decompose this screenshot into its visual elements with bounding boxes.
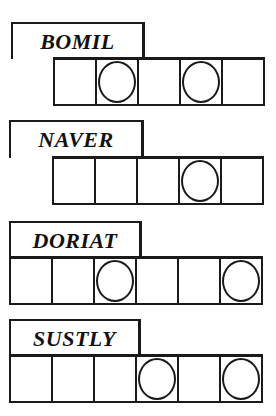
scrambled-word-box: BOMIL: [11, 22, 145, 59]
scrambled-word: SUSTLY: [33, 326, 116, 352]
answer-cells: [9, 354, 263, 403]
letter-cell-5[interactable]: [179, 357, 221, 401]
letter-cell-3[interactable]: [95, 357, 137, 401]
letter-cell-5[interactable]: [223, 60, 265, 104]
scrambled-word: DORIAT: [33, 228, 118, 254]
letter-cell-1[interactable]: [11, 357, 53, 401]
circled-letter-cell-4[interactable]: [137, 357, 179, 401]
letter-cell-2[interactable]: [53, 259, 95, 303]
answer-cells: [53, 57, 265, 106]
circled-letter-cell-4[interactable]: [180, 159, 222, 203]
scrambled-word-box: SUSTLY: [9, 319, 141, 356]
letter-cell-5[interactable]: [179, 259, 221, 303]
letter-cell-1[interactable]: [11, 259, 53, 303]
letter-cell-2[interactable]: [96, 159, 138, 203]
circled-letter-cell-3[interactable]: [95, 259, 137, 303]
scrambled-word-box: DORIAT: [9, 221, 142, 258]
circled-letter-cell-4[interactable]: [181, 60, 223, 104]
letter-cell-2[interactable]: [53, 357, 95, 401]
letter-cell-3[interactable]: [139, 60, 181, 104]
answer-cells: [9, 256, 263, 305]
circled-letter-cell-2[interactable]: [97, 60, 139, 104]
circled-letter-cell-6[interactable]: [221, 357, 263, 401]
letter-cell-3[interactable]: [138, 159, 180, 203]
scrambled-word: NAVER: [38, 127, 113, 153]
letter-cell-5[interactable]: [222, 159, 264, 203]
letter-cell-4[interactable]: [137, 259, 179, 303]
letter-cell-1[interactable]: [55, 60, 97, 104]
answer-cells: [52, 156, 264, 205]
scrambled-word: BOMIL: [40, 29, 115, 55]
letter-cell-1[interactable]: [54, 159, 96, 203]
scrambled-word-box: NAVER: [9, 120, 144, 158]
circled-letter-cell-6[interactable]: [221, 259, 263, 303]
